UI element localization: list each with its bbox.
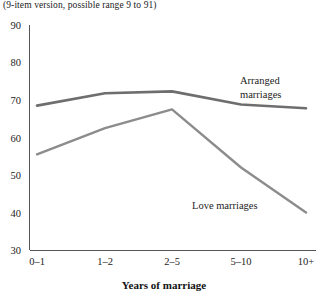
y-axis-tick-70: 70 bbox=[11, 95, 22, 106]
x-axis-title: Years of marriage bbox=[122, 279, 206, 291]
series-line-love-marriages bbox=[37, 109, 306, 212]
x-axis-tick-0-1: 0–1 bbox=[29, 256, 45, 267]
chart-container: (9-item version, possible range 9 to 91)… bbox=[0, 0, 321, 297]
x-axis-tick-1-2: 1–2 bbox=[97, 256, 113, 267]
x-axis-tick-5-10: 5–10 bbox=[231, 256, 252, 267]
y-axis-tick-40: 40 bbox=[11, 208, 22, 219]
x-axis-tick-10-plus: 10+ bbox=[298, 256, 315, 267]
x-axis-tick-2-5: 2–5 bbox=[164, 256, 180, 267]
y-axis-tick-30: 30 bbox=[11, 245, 22, 256]
y-axis-tick-80: 80 bbox=[11, 57, 22, 68]
y-axis-tick-50: 50 bbox=[11, 170, 22, 181]
y-axis-tick-60: 60 bbox=[11, 133, 22, 144]
chart-plot-area: 90 80 70 60 50 40 30 0–1 1–2 2–5 5–10 10… bbox=[0, 0, 321, 297]
series-label-arranged-line1: Arranged bbox=[240, 75, 280, 86]
series-label-arranged-line2: marriages bbox=[240, 89, 281, 100]
series-label-love-marriages: Love marriages bbox=[192, 200, 258, 211]
y-axis-tick-90: 90 bbox=[11, 20, 22, 31]
